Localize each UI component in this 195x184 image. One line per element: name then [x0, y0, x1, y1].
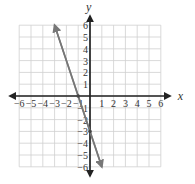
x-tick-label: −3 — [49, 98, 60, 109]
y-tick-label: 6 — [83, 20, 88, 31]
y-tick-label: 2 — [83, 67, 88, 78]
x-tick-label: 6 — [158, 98, 163, 109]
y-tick-label: 1 — [83, 79, 88, 90]
intercept-point — [88, 130, 92, 134]
y-tick-label: 4 — [83, 44, 88, 55]
x-tick-label: 5 — [147, 98, 152, 109]
y-tick-label: −3 — [77, 126, 88, 137]
x-tick-label: 4 — [135, 98, 140, 109]
axes — [10, 16, 170, 176]
y-tick-label: −5 — [77, 150, 88, 161]
y-tick-label: 3 — [83, 56, 88, 67]
x-tick-label: −4 — [37, 98, 48, 109]
x-tick-label: 1 — [99, 98, 104, 109]
intercept-point — [76, 94, 80, 98]
x-tick-label: −6 — [14, 98, 25, 109]
x-tick-label: 3 — [123, 98, 128, 109]
x-tick-label: −2 — [61, 98, 72, 109]
coordinate-plane: xy−6−5−4−3−2−1123456654321−1−2−3−4−5−6 — [0, 0, 195, 184]
x-tick-label: −5 — [26, 98, 37, 109]
x-axis-label: x — [177, 89, 184, 103]
y-tick-label: −4 — [77, 138, 88, 149]
y-tick-label: 5 — [83, 32, 88, 43]
y-axis-label: y — [85, 0, 92, 14]
y-tick-label: −6 — [77, 162, 88, 173]
x-tick-label: 2 — [111, 98, 116, 109]
